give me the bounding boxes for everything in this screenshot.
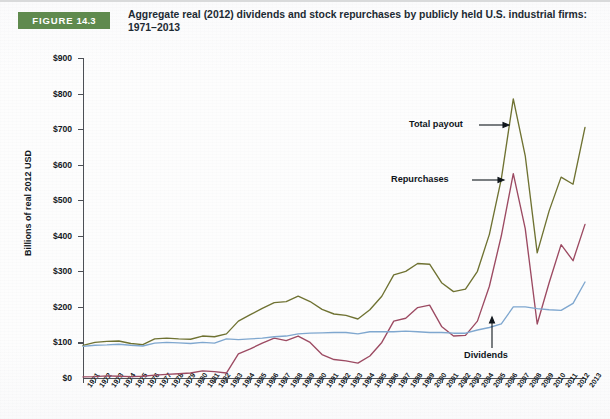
- figure-badge: FIGURE 14.3: [18, 12, 110, 29]
- figure-badge-prefix: FIGURE: [32, 15, 73, 26]
- figure-header: FIGURE 14.3 Aggregate real (2012) divide…: [0, 8, 610, 48]
- figure-root: FIGURE 14.3 Aggregate real (2012) divide…: [0, 0, 610, 419]
- annotation-dividends: Dividends: [464, 350, 508, 360]
- header-rule: [0, 0, 610, 2]
- annotation-repurchases: Repurchases: [391, 174, 449, 184]
- leader-arrow-repurchases: [498, 178, 504, 183]
- leader-arrow-dividends: [490, 317, 495, 323]
- figure-badge-number: 14.3: [77, 15, 96, 26]
- leader-arrow-total-payout: [503, 123, 509, 128]
- series-line-repurchases: [83, 174, 585, 377]
- annotation-total-payout: Total payout: [409, 119, 463, 129]
- chart-plot: [0, 48, 610, 419]
- figure-title: Aggregate real (2012) dividends and stoc…: [128, 9, 598, 34]
- chart-area: Billions of real 2012 USD $0$100$200$300…: [0, 48, 610, 419]
- series-line-total-payout: [83, 99, 585, 345]
